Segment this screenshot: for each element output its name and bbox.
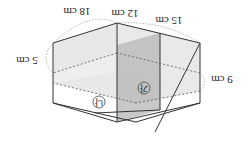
label-width: 15 cm — [155, 15, 183, 27]
label-height-left: 5 cm — [16, 55, 38, 67]
partition-wall — [117, 33, 160, 122]
label-partition-offset: 12 cm — [111, 8, 139, 20]
box-partition-diagram: 가 나 5 cm 9 cm 18 cm 12 cm 15 cm — [0, 0, 249, 160]
svg-text:나: 나 — [95, 97, 103, 107]
compartment-label-b: 나 — [93, 96, 105, 108]
svg-text:가: 가 — [140, 83, 148, 93]
label-height-right: 9 cm — [211, 74, 233, 86]
label-length: 18 cm — [63, 6, 91, 18]
